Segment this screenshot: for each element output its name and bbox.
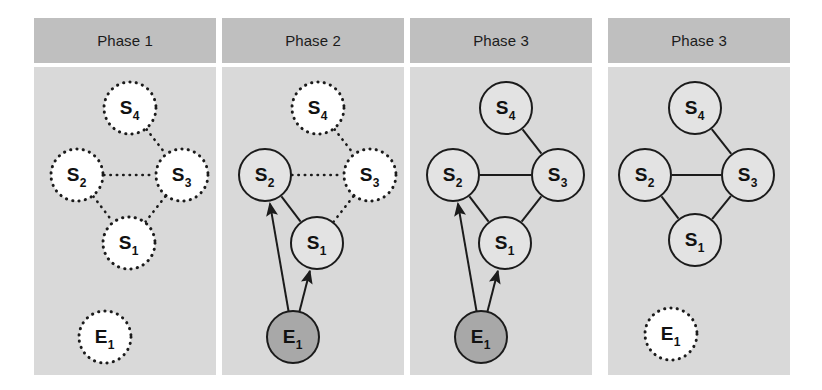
graph-edge (712, 196, 731, 219)
graph-edge (281, 196, 300, 221)
graph-edge (335, 129, 354, 153)
graph-node-s3[interactable]: S3 (532, 149, 584, 201)
panel-graph: S4S2S3S1E1 (608, 67, 790, 375)
graph-node-e1[interactable]: E1 (79, 311, 131, 363)
graph-node-s4[interactable]: S4 (292, 82, 344, 134)
node-label: E (95, 326, 108, 347)
graph-node-s4[interactable]: S4 (104, 82, 156, 134)
node-label-subscript: 4 (133, 109, 140, 123)
node-label-subscript: 2 (268, 176, 275, 190)
graph-node-s3[interactable]: S3 (156, 149, 208, 201)
graph-edge (334, 196, 354, 221)
node-label: E (283, 326, 296, 347)
graph-node-s4[interactable]: S4 (669, 82, 721, 134)
node-label: S (685, 229, 698, 250)
graph-node-e1[interactable]: E1 (267, 311, 319, 363)
graph-node-s3[interactable]: S3 (344, 149, 396, 201)
node-label-subscript: 3 (373, 176, 380, 190)
node-label: S (685, 97, 698, 118)
graph-node-s3[interactable]: S3 (722, 149, 774, 201)
node-label: S (308, 97, 321, 118)
graph-node-e1[interactable]: E1 (455, 311, 507, 363)
graph-edge (147, 129, 166, 153)
graph-node-s2[interactable]: S2 (51, 149, 103, 201)
graph-edge (523, 129, 542, 153)
phase-diagram-figure: Phase 1S4S2S3S1E1Phase 2S4S2S3S1E1Phase … (0, 0, 822, 390)
graph-edge (712, 129, 731, 154)
node-label: S (307, 232, 320, 253)
node-label: S (255, 164, 268, 185)
graph-edge (522, 196, 542, 221)
node-label: S (548, 164, 561, 185)
node-label-subscript: 1 (296, 338, 303, 352)
graph-edge (469, 196, 488, 221)
node-label-subscript: 1 (132, 244, 139, 258)
node-label-subscript: 2 (456, 176, 463, 190)
node-label: S (635, 164, 648, 185)
node-label-subscript: 2 (80, 176, 87, 190)
panel-title: Phase 2 (222, 18, 404, 63)
panel-graph: S4S2S3S1E1 (410, 67, 592, 375)
panel-title: Phase 3 (410, 18, 592, 63)
node-label-subscript: 3 (751, 176, 758, 190)
phase-panel: Phase 1S4S2S3S1E1 (34, 18, 216, 375)
node-label-subscript: 4 (321, 109, 328, 123)
node-label-subscript: 3 (185, 176, 192, 190)
graph-node-s1[interactable]: S1 (479, 217, 531, 269)
graph-node-s2[interactable]: S2 (619, 149, 671, 201)
node-label-subscript: 1 (108, 338, 115, 352)
panel-graph: S4S2S3S1E1 (222, 67, 404, 375)
node-label: S (119, 232, 132, 253)
node-label: S (496, 97, 509, 118)
node-label: S (360, 164, 373, 185)
phase-panel: Phase 3S4S2S3S1E1 (608, 18, 790, 375)
node-label-subscript: 1 (698, 241, 705, 255)
graph-node-s2[interactable]: S2 (239, 149, 291, 201)
node-label: S (495, 232, 508, 253)
node-label: S (443, 164, 456, 185)
node-label: S (172, 164, 185, 185)
graph-arrow (486, 271, 498, 318)
graph-node-s1[interactable]: S1 (103, 217, 155, 269)
graph-edge (93, 196, 112, 221)
node-label-subscript: 4 (509, 109, 516, 123)
node-label-subscript: 1 (320, 244, 327, 258)
node-label-subscript: 2 (648, 176, 655, 190)
node-label: E (471, 326, 484, 347)
node-label-subscript: 1 (508, 244, 515, 258)
node-label: S (67, 164, 80, 185)
graph-arrow (298, 271, 310, 318)
node-label: S (738, 164, 751, 185)
graph-edge (661, 196, 678, 218)
phase-panel: Phase 3S4S2S3S1E1 (410, 18, 592, 375)
graph-node-s2[interactable]: S2 (427, 149, 479, 201)
node-label: S (120, 97, 133, 118)
phase-panel: Phase 2S4S2S3S1E1 (222, 18, 404, 375)
graph-node-e1[interactable]: E1 (645, 308, 697, 360)
panel-title: Phase 3 (608, 18, 790, 63)
node-label-subscript: 1 (674, 335, 681, 349)
graph-edge (146, 196, 166, 221)
graph-node-s1[interactable]: S1 (291, 217, 343, 269)
graph-node-s1[interactable]: S1 (669, 214, 721, 266)
panel-graph: S4S2S3S1E1 (34, 67, 216, 375)
graph-node-s4[interactable]: S4 (480, 82, 532, 134)
node-label: E (661, 323, 674, 344)
node-label-subscript: 1 (484, 338, 491, 352)
panel-title: Phase 1 (34, 18, 216, 63)
node-label-subscript: 3 (561, 176, 568, 190)
graph-arrow (270, 204, 290, 318)
node-label-subscript: 4 (698, 109, 705, 123)
graph-arrow (458, 204, 478, 318)
